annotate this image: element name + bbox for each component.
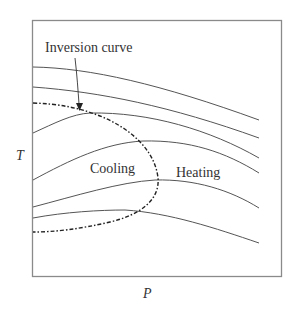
isenthalp-curve-6 [33,210,259,243]
x-axis-label: P [142,286,152,301]
inversion-curve-pointer [75,58,79,104]
inversion-curve-diagram: Inversion curve Cooling Heating T P [0,0,296,311]
isenthalp-curve-3 [33,113,259,158]
isenthalp-curve-1 [33,67,259,120]
cooling-label: Cooling [90,161,135,176]
y-axis-label: T [16,148,25,163]
isenthalp-curve-5 [33,180,259,208]
isenthalp-curve-4 [33,141,259,180]
isenthalp-curves [33,67,259,243]
isenthalp-curve-2 [33,87,259,138]
heating-label: Heating [176,165,220,180]
inversion-curve-label: Inversion curve [45,40,132,55]
